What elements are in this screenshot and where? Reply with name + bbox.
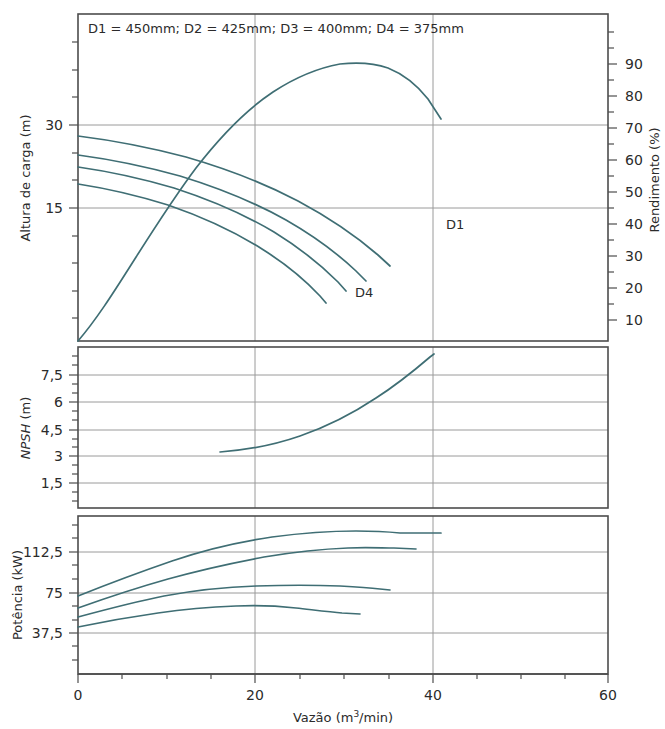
panel-npsh: 7,5 6 4,5 3 1,5 NPSH (m) xyxy=(18,347,608,508)
xtick-40: 40 xyxy=(424,687,442,703)
y2tick-10: 10 xyxy=(625,312,643,328)
ytick-npsh-6: 6 xyxy=(54,394,63,410)
panel-frame-middle xyxy=(78,347,608,508)
ytick-npsh-75: 7,5 xyxy=(41,367,63,383)
ylabel-efficiency: Rendimento (%) xyxy=(647,127,662,232)
y2tick-50: 50 xyxy=(625,184,643,200)
panel-head-efficiency: D1 = 450mm; D2 = 425mm; D3 = 400mm; D4 =… xyxy=(18,14,662,341)
curve-npsh xyxy=(220,354,434,452)
ytick-npsh-45: 4,5 xyxy=(41,422,63,438)
curve-efficiency xyxy=(78,63,441,341)
panel-power: 112,5 75 37,5 Potência (kW) 0 20 xyxy=(10,516,617,725)
curve-head-d3 xyxy=(78,167,346,291)
ylabel-power: Potência (kW) xyxy=(10,550,25,640)
diameter-annotation: D1 = 450mm; D2 = 425mm; D3 = 400mm; D4 =… xyxy=(88,21,464,36)
panel-frame-bottom xyxy=(78,516,608,674)
y2tick-60: 60 xyxy=(625,152,643,168)
ytick-npsh-15: 1,5 xyxy=(41,475,63,491)
ytick-top-15: 15 xyxy=(45,200,63,216)
xlabel-flow-end: /min) xyxy=(359,710,393,725)
ytick-top-30: 30 xyxy=(45,117,63,133)
ylabel-npsh-unit: (m) xyxy=(18,397,33,424)
curve-label-d4: D4 xyxy=(355,285,373,300)
y2tick-40: 40 xyxy=(625,216,643,232)
y2tick-90: 90 xyxy=(625,56,643,72)
xtick-0: 0 xyxy=(74,687,83,703)
curve-power-d4 xyxy=(78,606,360,627)
ytick-pow-1125: 112,5 xyxy=(23,544,63,560)
y2tick-30: 30 xyxy=(625,248,643,264)
pump-performance-figure: D1 = 450mm; D2 = 425mm; D3 = 400mm; D4 =… xyxy=(0,0,665,729)
y2tick-70: 70 xyxy=(625,120,643,136)
ytick-pow-375: 37,5 xyxy=(32,625,63,641)
ytick-npsh-3: 3 xyxy=(54,448,63,464)
left-ticks-top xyxy=(69,42,78,318)
curve-head-d1 xyxy=(78,136,390,266)
curve-label-d1: D1 xyxy=(446,217,464,232)
curve-power-d2 xyxy=(78,548,416,608)
y2tick-80: 80 xyxy=(625,88,643,104)
xlabel-flow: Vazão (m3/min) xyxy=(293,709,393,725)
left-ticks-bottom xyxy=(69,525,78,660)
chart-svg: D1 = 450mm; D2 = 425mm; D3 = 400mm; D4 =… xyxy=(0,0,665,729)
xlabel-flow-main: Vazão (m xyxy=(293,710,353,725)
left-ticks-middle xyxy=(69,356,78,501)
ytick-pow-75: 75 xyxy=(45,585,63,601)
ylabel-npsh-italic: NPSH xyxy=(18,423,33,459)
x-ticks xyxy=(78,674,608,683)
y2tick-20: 20 xyxy=(625,280,643,296)
right-ticks-top xyxy=(608,32,617,320)
xtick-20: 20 xyxy=(246,687,264,703)
ylabel-npsh: NPSH (m) xyxy=(18,397,33,460)
curve-head-d4 xyxy=(78,184,326,303)
xtick-60: 60 xyxy=(599,687,617,703)
ylabel-head: Altura de carga (m) xyxy=(18,114,33,241)
